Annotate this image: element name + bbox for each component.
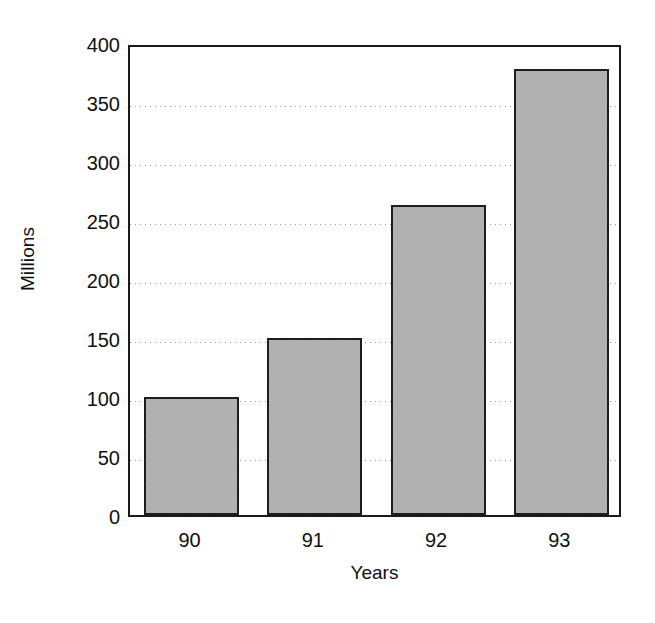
x-tick-label: 90 — [179, 528, 201, 552]
x-axis-tick-labels: 90919293 — [128, 528, 621, 558]
x-tick-label: 92 — [425, 528, 447, 552]
y-tick-label: 150 — [87, 330, 120, 350]
y-tick-label: 100 — [87, 389, 120, 409]
x-tick-label: 91 — [302, 528, 324, 552]
y-tick-label: 350 — [87, 94, 120, 114]
y-tick-label: 50 — [98, 448, 120, 468]
y-tick-label: 200 — [87, 271, 120, 291]
x-tick-label: 93 — [548, 528, 570, 552]
y-tick-label: 0 — [109, 507, 120, 527]
y-axis-title: Millions — [0, 0, 60, 517]
y-tick-label: 400 — [87, 35, 120, 55]
y-tick-label: 300 — [87, 153, 120, 173]
y-axis-tick-labels: 050100150200250300350400 — [52, 45, 120, 517]
plot-area — [128, 45, 621, 517]
bar-90 — [144, 397, 239, 515]
y-axis-title-text: Millions — [17, 226, 39, 290]
x-axis-title: Years — [128, 562, 621, 584]
bar-91 — [267, 338, 362, 515]
bar-93 — [514, 69, 609, 515]
bar-92 — [391, 205, 486, 515]
y-tick-label: 250 — [87, 212, 120, 232]
bar-chart-figure: Millions 050100150200250300350400 909192… — [0, 0, 655, 623]
